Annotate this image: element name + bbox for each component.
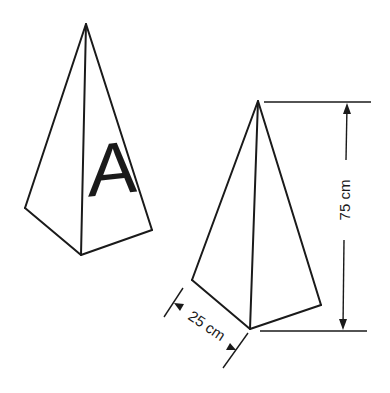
base-dimension: 25 cm	[164, 288, 248, 368]
pyramid-a-base-edges	[25, 208, 152, 255]
height-arrow-upper-line	[346, 106, 347, 160]
arrowhead-left-icon	[174, 303, 184, 311]
arrowhead-right-icon	[226, 343, 236, 350]
height-label: 75 cm	[336, 180, 353, 221]
arrowhead-up-icon	[343, 103, 351, 114]
pyramid-b	[192, 101, 321, 329]
base-label: 25 cm	[185, 307, 228, 344]
pyramid-a: A	[25, 24, 152, 255]
diagram-canvas: A 75 cm 25 cm	[0, 0, 390, 393]
face-letter-a: A	[88, 125, 138, 213]
arrowhead-down-icon	[339, 319, 347, 330]
height-dimension: 75 cm	[260, 102, 371, 331]
base-extension-right	[223, 333, 248, 368]
pyramid-a-front-edge	[81, 24, 86, 255]
pyramid-b-front-edge	[250, 101, 258, 329]
base-extension-left	[164, 288, 183, 317]
height-arrow-lower-line	[343, 240, 344, 327]
